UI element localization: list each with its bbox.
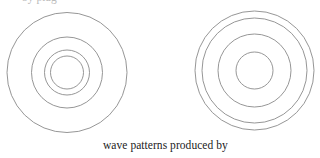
figure-caption: wave patterns produced by: [103, 139, 228, 151]
concentric-circles-diagram: [0, 0, 320, 158]
wave-pattern-figure: by plug wave patterns produced by: [0, 0, 320, 158]
left-wave-pattern: [7, 13, 127, 133]
right-wave-pattern: [195, 11, 314, 130]
wave-ring-4: [236, 52, 273, 89]
wave-ring-3: [45, 50, 90, 95]
wave-ring-1: [195, 11, 314, 130]
wave-ring-4: [51, 56, 84, 89]
wave-ring-3: [218, 34, 291, 107]
wave-ring-1: [7, 13, 127, 133]
wave-ring-2: [32, 37, 103, 108]
